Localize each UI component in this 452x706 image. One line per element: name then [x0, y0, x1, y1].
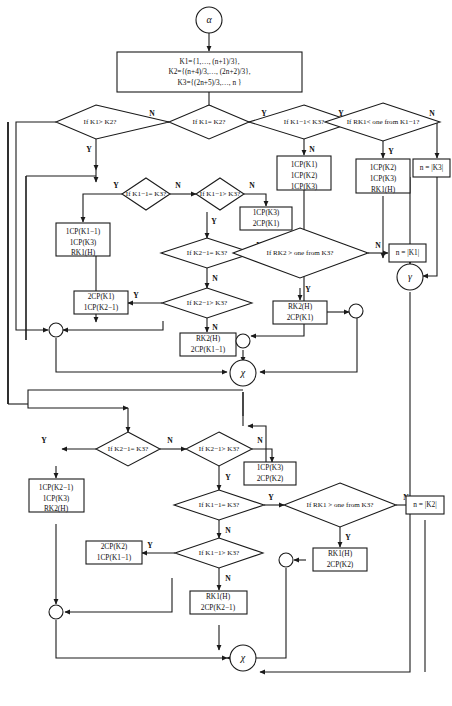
edge-label-yes: Y	[345, 533, 351, 542]
chi-symbol: χ	[240, 652, 246, 663]
process-1cp-k1m1-k3-rk1: 1CP(K1−1) 1CP(K3) RK1(H)	[56, 223, 110, 257]
process-rk2-2cp-k1: RK2(H) 2CP(K1)	[273, 301, 327, 324]
decision-label: If RK2 > one from K3?	[267, 249, 334, 257]
process-line: RK2(H)	[196, 334, 221, 343]
edge-label-no: N	[429, 109, 435, 118]
edge-label-yes: Y	[338, 109, 344, 118]
flowchart-canvas: α K1={1,…, (n+1)/3}, K2={(n+4)/3,…, (2n+…	[0, 0, 452, 706]
decision-if-rk2-gt-one-from-k3[interactable]: If RK2 > one from K3?	[233, 228, 368, 278]
process-line: 1CP(K1−1)	[66, 227, 101, 236]
edge-label-yes: Y	[388, 147, 394, 156]
decision-if-k2m1-eq-k3-lower[interactable]: If K2−1= K3?	[96, 432, 160, 466]
init-line-2: K2={(n+4)/3,…, (2n+2)/3},	[168, 67, 250, 76]
process-line: 2CP(K2−1)	[201, 603, 236, 612]
process-line: 1CP(K3)	[257, 463, 284, 472]
process-line: 1CP(K2)	[370, 163, 397, 172]
edge-label-no: N	[149, 109, 155, 118]
decision-label: If RK1 > one from K3?	[307, 501, 374, 509]
process-line: 1CP(K3)	[291, 182, 318, 191]
process-line: RK1(H)	[371, 185, 396, 194]
process-line: RK1(H)	[206, 592, 231, 601]
start-symbol: α	[206, 14, 212, 25]
edge-label-yes: Y	[305, 285, 311, 294]
flowchart-svg: α K1={1,…, (n+1)/3}, K2={(n+4)/3,…, (2n+…	[0, 0, 452, 706]
init-definitions-box: K1={1,…, (n+1)/3}, K2={(n+4)/3,…, (2n+2)…	[117, 52, 302, 92]
process-rk2-2cp-k1m1: RK2(H) 2CP(K1−1)	[180, 333, 236, 356]
process-line: 1CP(K2−1)	[39, 483, 74, 492]
decision-label: If K2−1> K3?	[187, 299, 227, 307]
terminal-n-eq-k2: n = |K2|	[406, 496, 444, 514]
connector-chi-lower: χ	[230, 645, 256, 671]
process-line: 1CP(K3)	[43, 494, 70, 503]
edge-label-no: N	[175, 181, 181, 190]
decision-label: If K2−1= K3?	[187, 249, 227, 257]
edge-label-yes: Y	[261, 109, 267, 118]
edge-label-no: N	[225, 526, 231, 535]
decision-label: If K1−1= K3?	[199, 501, 239, 509]
edge-label-yes: Y	[268, 493, 274, 502]
process-1cp-k2-k3-rk1: 1CP(K2) 1CP(K3) RK1(H)	[356, 159, 410, 194]
merge-node	[49, 323, 63, 337]
decision-label: If K2−1> K3?	[199, 445, 239, 453]
process-1cp-k1-k2-k3: 1CP(K1) 1CP(K2) 1CP(K3)	[277, 156, 331, 191]
process-line: 1CP(K3)	[370, 174, 397, 183]
merge-node	[49, 605, 63, 619]
edge-label-no: N	[212, 323, 218, 332]
decision-if-k2m1-gt-k3-upper[interactable]: If K2−1> K3?	[162, 288, 252, 318]
edge-label-no: N	[375, 241, 381, 250]
process-1cp-k3-2cp-k1: 1CP(K3) 2CP(K1)	[240, 207, 292, 230]
start-node-alpha: α	[196, 7, 222, 33]
terminal-n-eq-k3: n = |K3|	[413, 159, 450, 177]
process-line: 2CP(K1)	[287, 313, 314, 322]
init-line-3: K3={(2n+5)/3,…, n }	[178, 78, 242, 87]
process-line: 1CP(K3)	[70, 238, 97, 247]
edge-label-no: N	[309, 145, 315, 154]
merge-node	[349, 304, 363, 318]
edge-label-no: N	[249, 181, 255, 190]
decision-label: If K1> K2?	[84, 118, 117, 126]
decision-if-rk1-gt-one-from-k3[interactable]: If RK1 > one from K3?	[284, 483, 396, 527]
edge-label-no: N	[225, 574, 231, 583]
terminal-n-eq-k1: n = |K1|	[389, 244, 426, 262]
process-line: RK1(H)	[328, 549, 353, 558]
process-1cp-k2m1-k3-rk2: 1CP(K2−1) 1CP(K3) RK2(H)	[29, 479, 84, 513]
process-line: 2CP(K1−1)	[191, 345, 226, 354]
decision-if-k1m1-gt-k3[interactable]: If K1−1> K3?	[196, 178, 244, 210]
chi-symbol: χ	[240, 367, 246, 378]
process-line: RK2(H)	[44, 504, 69, 513]
process-line: 1CP(K1−1)	[97, 553, 132, 562]
edge-label-yes: Y	[147, 541, 153, 550]
process-line: 1CP(K1)	[291, 160, 318, 169]
process-rk1-2cp-k2: RK1(H) 2CP(K2)	[313, 548, 367, 571]
decision-if-k1-eq-k2[interactable]: If K1= K2?	[169, 105, 249, 139]
decision-label: If K1−1> K3?	[199, 549, 239, 557]
process-line: 2CP(K2)	[327, 560, 354, 569]
process-rk1-2cp-k2m1: RK1(H) 2CP(K2−1)	[190, 591, 247, 614]
process-line: 2CP(K1)	[253, 219, 280, 228]
connector-chi-upper: χ	[230, 360, 256, 386]
process-2cp-k1-1cp-k2m1: 2CP(K1) 1CP(K2−1)	[74, 291, 128, 314]
process-line: 2CP(K1)	[88, 292, 115, 301]
process-line: RK1(H)	[71, 248, 96, 257]
edge-label-yes: Y	[133, 291, 139, 300]
decision-if-k1m1-gt-k3-lower[interactable]: If K1−1> K3?	[175, 538, 263, 568]
connector-gamma: γ	[397, 264, 423, 290]
merge-node	[279, 553, 293, 567]
edge-label-yes: Y	[211, 217, 217, 226]
process-line: 2CP(K2)	[101, 542, 128, 551]
terminal-label: n = |K2|	[413, 500, 437, 509]
decision-label: If K1= K2?	[193, 118, 226, 126]
decision-label: If K1−1> K3?	[200, 190, 240, 198]
decision-if-k1m1-eq-k3-lower[interactable]: If K1−1= K3?	[174, 490, 264, 520]
edge-label-no: N	[167, 436, 173, 445]
edge-label-yes: Y	[225, 473, 231, 482]
decision-label: If K2−1= K3?	[108, 445, 148, 453]
process-line: 2CP(K2)	[257, 474, 284, 483]
edge-label-yes: Y	[41, 436, 47, 445]
process-line: 1CP(K2)	[291, 171, 318, 180]
decision-if-k2m1-gt-k3-lower[interactable]: If K2−1> K3?	[186, 432, 252, 466]
edge-label-yes: Y	[113, 181, 119, 190]
decision-label: If K1−1< K3?	[284, 118, 324, 126]
decision-if-k1m1-eq-k3[interactable]: If K1−1= K3?	[122, 178, 170, 210]
process-line: RK2(H)	[288, 302, 313, 311]
